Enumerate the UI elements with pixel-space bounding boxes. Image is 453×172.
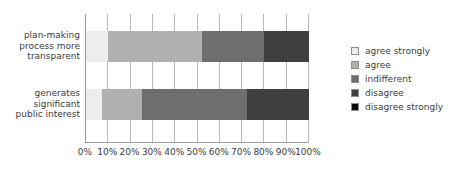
x-tick-label: 60%	[209, 146, 229, 158]
x-tick-label: 100%	[295, 146, 321, 158]
category-label-line: public interest	[0, 109, 80, 120]
legend-label: disagree	[365, 87, 404, 99]
legend-swatch	[351, 61, 359, 69]
legend-swatch	[351, 89, 359, 97]
legend-item: agree strongly	[351, 44, 451, 58]
x-axis-line	[85, 142, 308, 143]
category-label-line: plan-making	[0, 30, 80, 41]
x-tick-label: 80%	[253, 146, 273, 158]
legend-swatch	[351, 75, 359, 83]
category-label-transparent: plan-making process more transparent	[0, 30, 80, 62]
category-label-line: transparent	[0, 51, 80, 62]
x-tick-label: 50%	[186, 146, 206, 158]
bar-segment	[86, 31, 108, 62]
legend: agree stronglyagreeindifferentdisagreedi…	[351, 44, 451, 114]
legend-label: indifferent	[365, 73, 411, 85]
bar-public-interest	[86, 89, 309, 120]
legend-item: disagree	[351, 86, 451, 100]
legend-item: disagree strongly	[351, 100, 451, 114]
x-tick-label: 70%	[231, 146, 251, 158]
legend-label: agree	[365, 59, 391, 71]
legend-item: indifferent	[351, 72, 451, 86]
bar-segment	[264, 31, 309, 62]
x-axis-tick-labels: 0%10%20%30%40%50%60%70%80%90%100%	[85, 146, 308, 160]
legend-item: agree	[351, 58, 451, 72]
category-label-line: process more	[0, 41, 80, 52]
bar-transparent	[86, 31, 309, 62]
category-label-public-interest: generates significant public interest	[0, 88, 80, 120]
x-tick-label: 10%	[97, 146, 117, 158]
legend-label: disagree strongly	[365, 101, 443, 113]
x-tick-label: 30%	[142, 146, 162, 158]
category-label-line: significant	[0, 99, 80, 110]
plot-area	[85, 14, 308, 143]
legend-swatch	[351, 47, 359, 55]
bar-segment	[108, 31, 202, 62]
x-tick-label: 90%	[276, 146, 296, 158]
bar-segment	[247, 89, 309, 120]
x-tick-label: 40%	[164, 146, 184, 158]
legend-swatch	[351, 103, 359, 111]
bar-segment	[86, 89, 102, 120]
category-label-line: generates	[0, 88, 80, 99]
bar-segment	[102, 89, 142, 120]
stacked-bar-chart: plan-making process more transparent gen…	[0, 0, 453, 172]
legend-label: agree strongly	[365, 45, 430, 57]
x-tick-label: 20%	[120, 146, 140, 158]
x-tick-label: 0%	[78, 146, 92, 158]
bar-segment	[202, 31, 264, 62]
bar-segment	[142, 89, 247, 120]
